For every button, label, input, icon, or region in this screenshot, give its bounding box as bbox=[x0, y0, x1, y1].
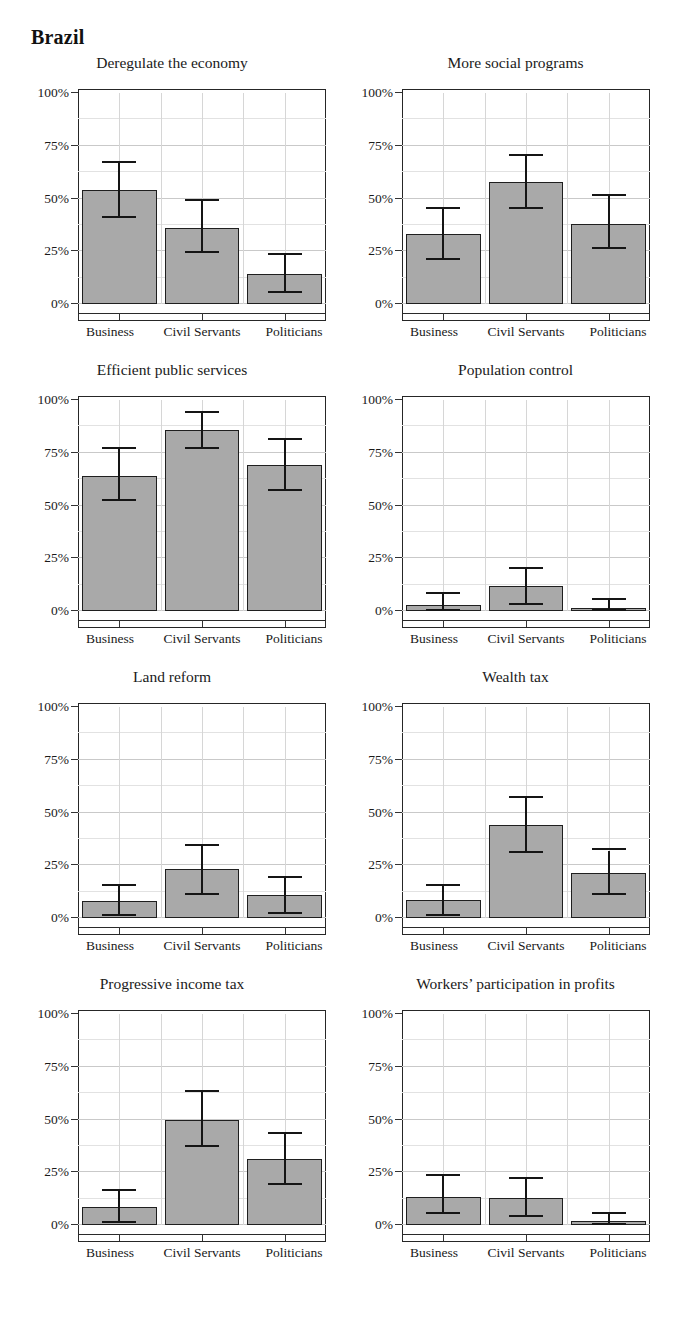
chart-title: Wealth tax bbox=[344, 668, 687, 686]
bar-group[interactable] bbox=[165, 400, 239, 611]
error-bar-cap-upper bbox=[102, 884, 136, 886]
y-axis-tick-label: 0% bbox=[375, 603, 393, 619]
x-axis-labels: BusinessCivil ServantsPoliticians bbox=[388, 1245, 664, 1261]
x-axis-tick bbox=[202, 313, 203, 320]
x-axis-end-left bbox=[78, 928, 79, 934]
bar-group[interactable] bbox=[489, 1014, 563, 1225]
bar-series bbox=[402, 707, 650, 918]
bar-group[interactable] bbox=[489, 400, 563, 611]
error-bar bbox=[284, 255, 286, 293]
error-bar-cap-lower bbox=[426, 1212, 460, 1214]
data-region: 0%25%50%75%100%BusinessCivil ServantsPol… bbox=[78, 400, 326, 611]
plot-area: 0%25%50%75%100%BusinessCivil ServantsPol… bbox=[402, 703, 650, 935]
error-bar-cap-upper bbox=[426, 592, 460, 594]
x-axis-tick-label: Politicians bbox=[572, 631, 663, 647]
error-bar-cap-upper bbox=[592, 1212, 626, 1214]
x-axis-end-right bbox=[325, 1235, 326, 1241]
y-axis-tick-label: 0% bbox=[51, 910, 69, 926]
x-axis-tick bbox=[285, 927, 286, 934]
bar-group[interactable] bbox=[406, 400, 480, 611]
bar-group[interactable] bbox=[247, 1014, 321, 1225]
data-region: 0%25%50%75%100%BusinessCivil ServantsPol… bbox=[78, 1014, 326, 1225]
error-bar bbox=[118, 163, 120, 218]
bar-group[interactable] bbox=[165, 1014, 239, 1225]
y-axis-tick bbox=[71, 303, 78, 304]
y-axis-tick-label: 0% bbox=[375, 296, 393, 312]
error-bar-cap-upper bbox=[185, 844, 219, 846]
error-bar-cap-lower bbox=[102, 1221, 136, 1223]
y-axis-tick bbox=[71, 1171, 78, 1172]
x-axis-tick bbox=[609, 927, 610, 934]
bar-group[interactable] bbox=[406, 93, 480, 304]
bar-group[interactable] bbox=[247, 93, 321, 304]
bar-group[interactable] bbox=[571, 400, 645, 611]
y-axis-tick bbox=[395, 145, 402, 146]
bar-group[interactable] bbox=[489, 93, 563, 304]
bar-group[interactable] bbox=[247, 400, 321, 611]
bar-group[interactable] bbox=[571, 707, 645, 918]
x-axis-end-right bbox=[325, 314, 326, 320]
x-axis-tick-label: Politicians bbox=[248, 938, 339, 954]
y-axis-tick bbox=[395, 557, 402, 558]
bar-group[interactable] bbox=[82, 707, 156, 918]
bar-group[interactable] bbox=[82, 93, 156, 304]
error-bar-cap-upper bbox=[426, 207, 460, 209]
y-axis-tick-label: 0% bbox=[375, 1217, 393, 1233]
y-axis-tick-label: 75% bbox=[368, 752, 393, 768]
bar-group[interactable] bbox=[406, 707, 480, 918]
y-axis-tick bbox=[395, 92, 402, 93]
error-bar-cap-upper bbox=[426, 884, 460, 886]
y-axis-tick bbox=[71, 706, 78, 707]
y-axis-tick bbox=[71, 1224, 78, 1225]
x-axis-tick-label: Civil Servants bbox=[480, 938, 571, 954]
x-axis-end-left bbox=[402, 621, 403, 627]
bar-group[interactable] bbox=[406, 1014, 480, 1225]
error-bar-cap-upper bbox=[509, 154, 543, 156]
chart-panel: Efficient public services0%25%50%75%100%… bbox=[0, 359, 344, 666]
x-axis-tick-label: Politicians bbox=[248, 324, 339, 340]
y-axis-tick-label: 75% bbox=[44, 138, 69, 154]
bar-group[interactable] bbox=[165, 707, 239, 918]
error-bar-cap-lower bbox=[268, 1183, 302, 1185]
error-bar-cap-lower bbox=[592, 1223, 626, 1225]
error-bar bbox=[284, 1134, 286, 1185]
bar-group[interactable] bbox=[247, 707, 321, 918]
y-axis-tick-label: 0% bbox=[51, 1217, 69, 1233]
y-axis-tick-label: 100% bbox=[362, 1006, 394, 1022]
y-axis-tick-label: 25% bbox=[368, 243, 393, 259]
x-axis-tick bbox=[119, 313, 120, 320]
error-bar-cap-upper bbox=[102, 447, 136, 449]
y-axis-tick-label: 25% bbox=[368, 857, 393, 873]
chart-title: Efficient public services bbox=[0, 361, 344, 379]
x-axis-tick bbox=[119, 620, 120, 627]
bar-group[interactable] bbox=[165, 93, 239, 304]
bar-group[interactable] bbox=[571, 93, 645, 304]
x-axis-tick-label: Business bbox=[64, 1245, 155, 1261]
error-bar bbox=[525, 156, 527, 209]
bar-group[interactable] bbox=[82, 400, 156, 611]
y-axis-tick-label: 50% bbox=[368, 805, 393, 821]
y-axis-tick-label: 50% bbox=[368, 1112, 393, 1128]
error-bar-cap-lower bbox=[185, 1145, 219, 1147]
y-axis-tick-label: 25% bbox=[44, 243, 69, 259]
error-bar-cap-upper bbox=[185, 411, 219, 413]
bar-group[interactable] bbox=[82, 1014, 156, 1225]
bar[interactable] bbox=[165, 430, 239, 611]
bar-group[interactable] bbox=[489, 707, 563, 918]
y-axis-tick bbox=[395, 505, 402, 506]
error-bar bbox=[284, 878, 286, 914]
error-bar bbox=[442, 209, 444, 260]
bar-group[interactable] bbox=[571, 1014, 645, 1225]
y-axis-tick bbox=[395, 917, 402, 918]
error-bar bbox=[118, 449, 120, 502]
x-axis-tick bbox=[202, 927, 203, 934]
y-axis-tick bbox=[71, 1119, 78, 1120]
y-axis-tick bbox=[395, 303, 402, 304]
x-axis-tick-label: Business bbox=[388, 1245, 479, 1261]
y-axis-tick bbox=[395, 1224, 402, 1225]
y-axis-tick bbox=[71, 1066, 78, 1067]
y-axis-tick-label: 0% bbox=[51, 603, 69, 619]
error-bar-cap-upper bbox=[268, 1132, 302, 1134]
y-axis-tick bbox=[395, 759, 402, 760]
error-bar bbox=[442, 1176, 444, 1214]
